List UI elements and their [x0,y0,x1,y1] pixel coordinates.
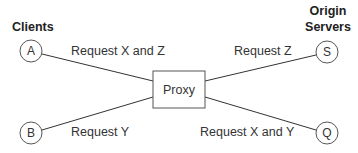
node-a-label: A [27,44,35,58]
origin-servers-header-line2: Servers [305,20,351,34]
edge-proxy-s [205,55,316,81]
proxy-diagram: Proxy Clients Origin Servers A B S Q Req… [0,0,358,153]
edge-label-b-proxy: Request Y [71,125,130,139]
node-b-label: B [27,126,35,140]
proxy-label: Proxy [163,83,196,97]
edge-a-proxy [42,54,153,81]
origin-servers-header-line1: Origin [310,4,347,18]
server-node-s: S [316,41,338,63]
node-s-label: S [323,45,331,59]
client-node-b: B [20,122,42,144]
edge-label-proxy-s: Request Z [234,44,292,58]
node-q-label: Q [322,126,331,140]
edge-label-a-proxy: Request X and Z [71,44,165,58]
server-node-q: Q [316,122,338,144]
clients-header: Clients [12,20,54,34]
client-node-a: A [20,40,42,62]
edge-label-proxy-q: Request X and Y [200,125,295,139]
